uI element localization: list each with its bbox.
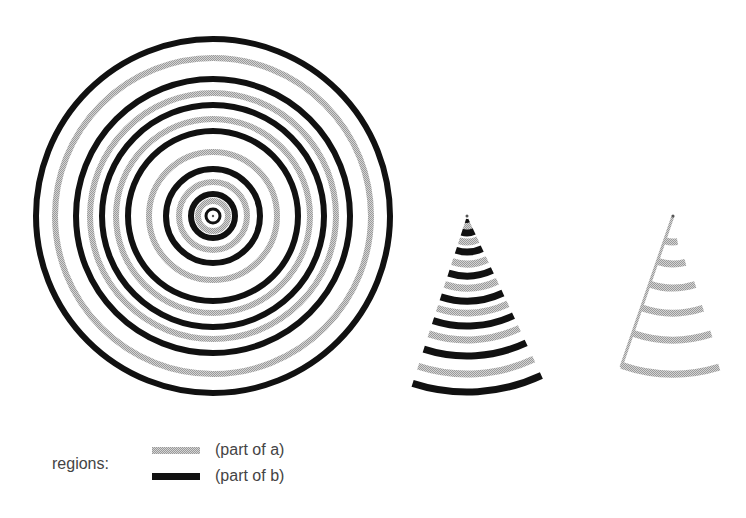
arc-region-a (429, 328, 520, 340)
legend-label-a: (part of a) (215, 441, 284, 459)
arc-region-a (459, 240, 478, 242)
legend-title: regions: (52, 455, 109, 473)
arc-region-a (464, 225, 471, 226)
arc-region-a (650, 284, 696, 288)
arc-region-a (633, 333, 712, 340)
legend-label-b: (part of b) (215, 467, 284, 485)
full-circle-rings (36, 39, 390, 393)
arc-region-b (413, 376, 542, 392)
arc-region-a (437, 304, 508, 313)
apex-dot (466, 215, 469, 218)
arc-region-b (462, 231, 474, 233)
arc-region-b (456, 249, 482, 252)
regions-diagram (0, 0, 746, 518)
arc-region-b (441, 293, 503, 301)
arc-region-a (641, 308, 703, 313)
arc-region-a (418, 359, 534, 374)
arc-region-a (622, 365, 720, 374)
arc-region-a (657, 261, 685, 264)
arc-region-b (424, 343, 526, 356)
wedge-both-regions (413, 215, 542, 393)
wedge-region-a-only (621, 215, 719, 375)
legend-swatch-a (152, 447, 200, 454)
arc-region-b (433, 316, 513, 326)
arc-region-a (665, 241, 678, 242)
apex-dot (672, 215, 675, 218)
legend-swatch-b (152, 473, 200, 480)
arc-region-a (452, 260, 487, 264)
arc-region-b (448, 270, 492, 276)
edge-region-a (621, 216, 673, 367)
arc-region-a (445, 281, 498, 288)
center-dot (212, 215, 214, 217)
